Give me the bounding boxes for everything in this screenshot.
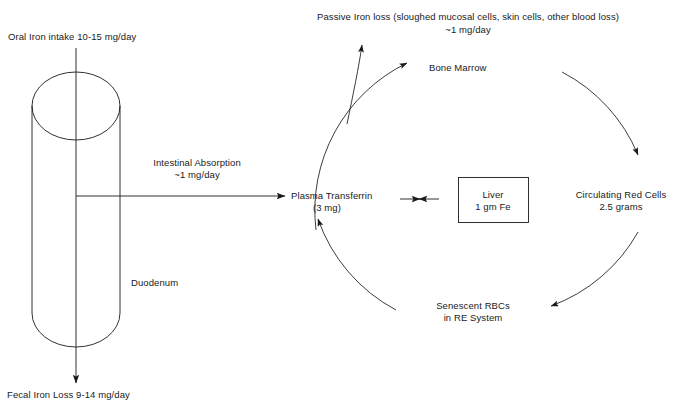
passive-iron-loss-label-line2: ~1 mg/day [445, 24, 490, 36]
passive-iron-loss-label-line1: Passive Iron loss (sloughed mucosal cell… [317, 11, 619, 23]
arc-bone-marrow-to-red-cells [562, 72, 638, 155]
bone-marrow-label: Bone Marrow [429, 62, 487, 74]
intestinal-absorption-label-line2: ~1 mg/day [174, 169, 219, 181]
arc-senescent-to-plasma [318, 219, 396, 310]
liver-label-line2: 1 gm Fe [475, 201, 511, 213]
arc-red-cells-to-senescent [551, 232, 638, 306]
liver-label-line1: Liver [482, 189, 503, 201]
passive-iron-loss-arrow [347, 45, 362, 124]
duodenum-label: Duodenum [131, 277, 178, 289]
plasma-transferrin-label-line1: Plasma Transferrin [291, 190, 372, 202]
circulating-red-cells-label-line2: 2.5 grams [599, 201, 642, 213]
plasma-transferrin-label-line2: (3 mg) [313, 202, 341, 214]
fecal-iron-loss-label: Fecal Iron Loss 9-14 mg/day [7, 389, 130, 401]
circulating-red-cells-label-line1: Circulating Red Cells [576, 189, 667, 201]
intestinal-absorption-label-line1: Intestinal Absorption [153, 157, 241, 169]
oral-iron-intake-label: Oral Iron intake 10-15 mg/day [8, 31, 136, 43]
senescent-rbcs-label-line1: Senescent RBCs [436, 300, 510, 312]
diagram-canvas: Oral Iron intake 10-15 mg/day Duodenum F… [0, 0, 685, 410]
diagram-vector-layer [0, 0, 685, 410]
senescent-rbcs-label-line2: in RE System [444, 312, 503, 324]
